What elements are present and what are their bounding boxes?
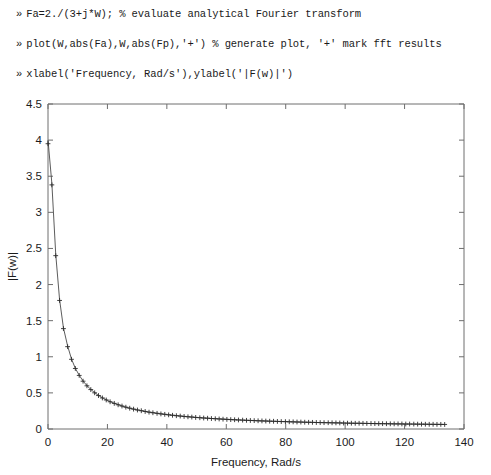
- matlab-console-output: »Fa=2./(3+j*W); % evaluate analytical Fo…: [0, 0, 491, 95]
- analytical-curve: [48, 140, 445, 424]
- plot-series: [46, 140, 447, 427]
- y-tick-label: 3.5: [26, 170, 42, 182]
- console-line-1: »Fa=2./(3+j*W); % evaluate analytical Fo…: [16, 8, 361, 20]
- console-line-2: »plot(W,abs(Fa),W,abs(Fp),'+') % generat…: [16, 38, 442, 50]
- x-tick-label: 100: [336, 436, 355, 448]
- prompt-symbol-3: »: [16, 68, 22, 80]
- axes-frame: [48, 104, 464, 429]
- console-command-1: Fa=2./(3+j*W); % evaluate analytical Fou…: [26, 8, 361, 20]
- console-line-3: »xlabel('Frequency, Rad/s'),ylabel('|F(w…: [16, 68, 293, 80]
- x-axis-ticks: 020406080100120140: [45, 104, 474, 448]
- x-axis-label: Frequency, Rad/s: [211, 456, 301, 468]
- console-command-2: plot(W,abs(Fa),W,abs(Fp),'+') % generate…: [26, 38, 441, 50]
- x-tick-label: 120: [395, 436, 414, 448]
- x-tick-label: 80: [279, 436, 292, 448]
- y-tick-label: 2: [36, 279, 42, 291]
- y-tick-label: 4: [36, 134, 43, 146]
- x-tick-label: 20: [101, 436, 114, 448]
- y-tick-label: 4.5: [26, 98, 42, 110]
- y-tick-label: 1: [36, 351, 42, 363]
- y-tick-label: 0.5: [26, 387, 42, 399]
- x-tick-label: 60: [220, 436, 233, 448]
- x-tick-label: 140: [454, 436, 473, 448]
- y-tick-label: 3: [36, 206, 42, 218]
- y-tick-label: 2.5: [26, 242, 42, 254]
- console-command-3: xlabel('Frequency, Rad/s'),ylabel('|F(w)…: [26, 68, 293, 80]
- y-tick-label: 1.5: [26, 315, 42, 327]
- x-tick-label: 40: [160, 436, 173, 448]
- x-tick-label: 0: [45, 436, 51, 448]
- fourier-transform-plot: 00.511.522.533.544.5 020406080100120140 …: [0, 95, 491, 475]
- prompt-symbol-2: »: [16, 38, 22, 50]
- y-tick-label: 0: [36, 423, 42, 435]
- figure-panel: 00.511.522.533.544.5 020406080100120140 …: [0, 95, 491, 475]
- prompt-symbol-1: »: [16, 8, 22, 20]
- y-axis-ticks: 00.511.522.533.544.5: [26, 98, 464, 435]
- y-axis-label: |F(w)|: [6, 252, 18, 281]
- fft-marker-set: [46, 141, 447, 427]
